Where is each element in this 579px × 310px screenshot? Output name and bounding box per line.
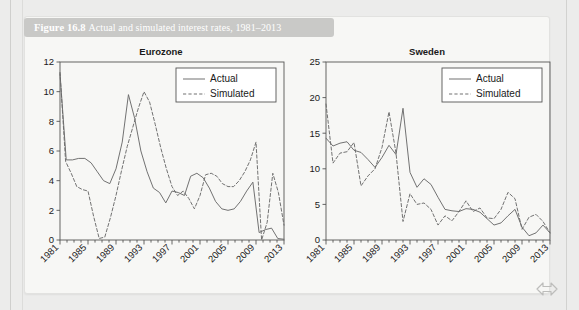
figure-caption: Figure 16.8 Actual and simulated interes… [34, 21, 364, 35]
svg-text:4: 4 [49, 175, 54, 186]
svg-text:1993: 1993 [388, 242, 411, 265]
svg-text:1997: 1997 [150, 242, 173, 265]
page-sheet: Figure 16.8 Actual and simulated interes… [0, 0, 579, 310]
svg-text:8: 8 [49, 116, 54, 127]
svg-text:2005: 2005 [206, 242, 229, 265]
figure-caption-label: Actual and simulated interest rates, 198… [88, 22, 281, 33]
svg-text:2013: 2013 [262, 242, 285, 265]
svg-text:Simulated: Simulated [210, 88, 254, 99]
svg-text:1985: 1985 [66, 242, 89, 265]
svg-text:25: 25 [309, 56, 320, 67]
page-spine-line-outer [10, 0, 11, 310]
svg-text:Simulated: Simulated [476, 88, 520, 99]
svg-text:2001: 2001 [444, 242, 467, 265]
svg-text:2001: 2001 [178, 242, 201, 265]
svg-text:20: 20 [309, 92, 320, 103]
svg-text:2013: 2013 [528, 242, 551, 265]
svg-text:1981: 1981 [38, 242, 61, 265]
chart-panel-sweden: Sweden 051015202519811985198919931997200… [296, 44, 558, 284]
svg-text:10: 10 [309, 163, 320, 174]
svg-text:Actual: Actual [476, 73, 504, 84]
chart-eurozone: 0246810121981198519891993199720012005200… [30, 44, 292, 284]
page-spine-line-inner [22, 0, 23, 310]
svg-text:2009: 2009 [234, 242, 257, 265]
svg-text:1989: 1989 [94, 242, 117, 265]
svg-text:1997: 1997 [416, 242, 439, 265]
svg-text:15: 15 [309, 128, 320, 139]
svg-text:1981: 1981 [304, 242, 327, 265]
svg-text:6: 6 [49, 145, 54, 156]
svg-text:1993: 1993 [122, 242, 145, 265]
svg-text:1989: 1989 [360, 242, 383, 265]
figure-number: Figure 16.8 [34, 22, 86, 33]
svg-text:12: 12 [43, 56, 54, 67]
svg-text:2009: 2009 [500, 242, 523, 265]
page-right-edge-line [566, 0, 567, 310]
svg-text:10: 10 [43, 86, 54, 97]
page-corner-curl-icon [534, 276, 560, 302]
svg-text:5: 5 [315, 199, 320, 210]
chart-panel-eurozone: Eurozone 0246810121981198519891993199720… [30, 44, 292, 284]
svg-text:2005: 2005 [472, 242, 495, 265]
svg-text:2: 2 [49, 205, 54, 216]
svg-text:1985: 1985 [332, 242, 355, 265]
svg-text:Actual: Actual [210, 73, 238, 84]
chart-sweden: 0510152025198119851989199319972001200520… [296, 44, 558, 284]
